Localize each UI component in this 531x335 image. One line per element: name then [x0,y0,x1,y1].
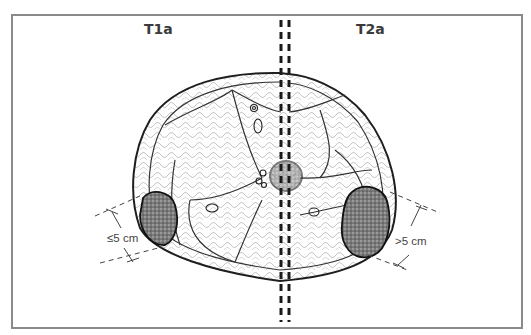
label-t2a: T2a [356,21,385,37]
tumor-small [140,192,177,245]
label-t1a: T1a [144,21,173,37]
bone [270,161,302,191]
measure-left: ≤5 cm [106,232,139,244]
tumor-large [342,187,390,258]
measure-right: >5 cm [394,235,428,247]
cross-section-illustration [0,0,531,335]
